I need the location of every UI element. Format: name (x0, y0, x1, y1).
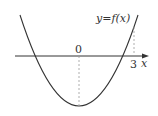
curve-label: y=f(x) (96, 13, 130, 24)
x-axis-label: x (141, 58, 147, 69)
tick-label-3: 3 (130, 59, 137, 70)
origin-label: 0 (75, 44, 82, 55)
